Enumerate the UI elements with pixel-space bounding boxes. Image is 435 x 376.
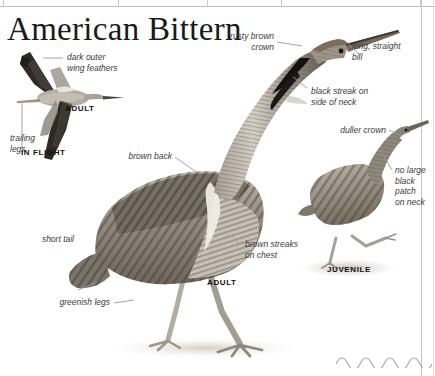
caption-adult: ADULT: [207, 278, 237, 287]
wave-decoration: [336, 352, 432, 368]
annotation-brown-streaks-on-chest: brown streaks on chest: [245, 239, 298, 260]
field-guide-page: American Bittern: [0, 0, 435, 376]
caption-juvenile: JUVENILE: [327, 265, 371, 274]
annotation-dark-outer-wing-feathers: dark outer wing feathers: [67, 52, 118, 73]
annotation-brown-back: brown back: [110, 151, 172, 162]
annotation-long-straight-bill: long, straight bill: [352, 41, 401, 62]
caption-in-flight: IN FLIGHT: [21, 148, 66, 157]
annotation-black-streak-on-side-of-neck: black streak on side of neck: [311, 86, 368, 107]
annotation-rusty-brown-crown: rusty brown crown: [180, 31, 274, 52]
caption-in-flight-adult: ADULT: [65, 104, 95, 113]
annotation-short-tail: short tail: [14, 234, 74, 245]
leader-brown-back: [175, 157, 196, 172]
leader-greenish-legs: [114, 300, 134, 303]
leader-rusty-crown: [277, 42, 302, 46]
annotation-no-large-black-patch-on-neck: no large black patch on neck: [395, 165, 426, 207]
annotation-greenish-legs: greenish legs: [38, 297, 110, 308]
annotation-duller-crown: duller crown: [296, 125, 386, 136]
